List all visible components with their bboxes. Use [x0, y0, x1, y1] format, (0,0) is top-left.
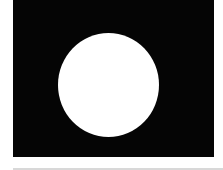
divider-line	[13, 168, 223, 170]
black-panel	[13, 0, 214, 157]
white-circle	[58, 33, 159, 137]
